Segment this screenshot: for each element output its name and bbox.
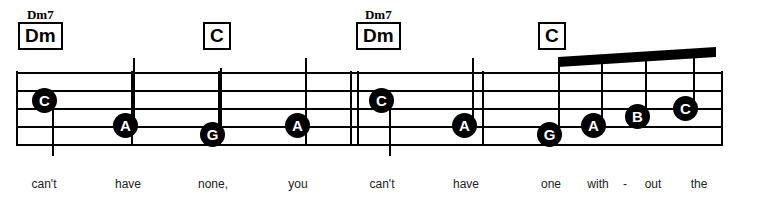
notehead-4-a[interactable]: A: [285, 113, 310, 138]
chord-alt-label: Dm7: [27, 8, 54, 21]
lyric-syllable-6: have: [453, 177, 479, 191]
chord-alt-label: Dm7: [365, 8, 392, 21]
eighth-note-beam: [554, 43, 720, 71]
notehead-10-c[interactable]: C: [673, 96, 698, 121]
lyric-syllable-11: the: [691, 177, 708, 191]
lyric-syllable-3: none,: [198, 177, 228, 191]
notehead-9-b[interactable]: B: [625, 104, 650, 129]
barline-4: [482, 71, 484, 146]
notehead-8-a[interactable]: A: [581, 113, 606, 138]
notehead-1-c[interactable]: C: [32, 88, 57, 113]
lyric-syllable-4: you: [288, 177, 307, 191]
lyric-syllable-2: have: [115, 177, 141, 191]
staff-line-2: [16, 90, 723, 92]
barline-double-b: [357, 71, 359, 146]
notehead-5-c[interactable]: C: [369, 88, 394, 113]
staff-line-1: [16, 72, 723, 74]
lyric-syllable-1: can't: [32, 177, 57, 191]
chord-box-label: Dm: [18, 22, 63, 50]
notehead-2-a[interactable]: A: [113, 113, 138, 138]
lyric-syllable-8: with: [587, 177, 608, 191]
staff-line-3: [16, 108, 723, 110]
barline-end: [721, 71, 723, 146]
lyric-syllable-10: out: [645, 177, 662, 191]
notehead-6-a[interactable]: A: [452, 113, 477, 138]
lyric-syllable-7: one: [541, 177, 561, 191]
chord-box-label: Dm: [356, 22, 401, 50]
chord-symbol-3[interactable]: Dm7Dm: [356, 8, 401, 50]
note-stem-7-g: [558, 62, 560, 135]
notehead-3-g[interactable]: G: [200, 122, 225, 147]
chord-symbol-2[interactable]: C: [203, 8, 231, 50]
lyric-syllable-9: -: [623, 177, 627, 191]
lyric-syllable-5: can't: [370, 177, 395, 191]
barline-double-a: [350, 71, 352, 146]
chord-symbol-1[interactable]: Dm7Dm: [18, 8, 63, 50]
notehead-7-g[interactable]: G: [537, 122, 562, 147]
chord-box-label: C: [203, 22, 231, 50]
staff-line-5: [16, 144, 723, 146]
music-score: Dm7Dm CDm7Dm C CAGACAGABC can'thavenone,…: [0, 0, 759, 206]
barline-start: [16, 71, 18, 146]
